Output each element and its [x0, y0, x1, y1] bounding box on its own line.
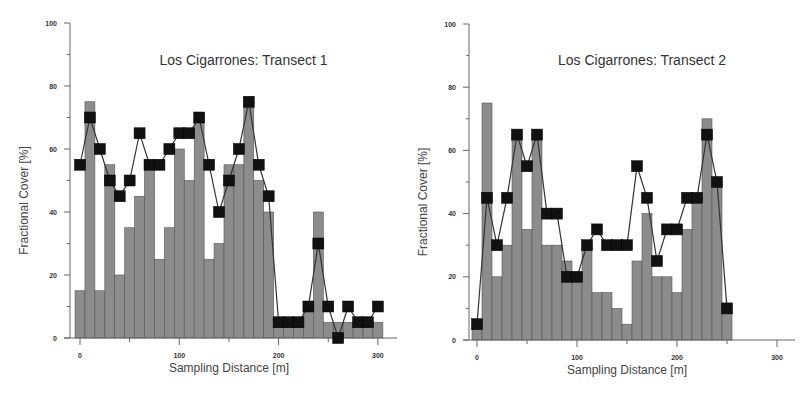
- chart-title: Los Cigarrones: Transect 2: [558, 52, 726, 68]
- square-marker: [502, 192, 513, 203]
- square-marker: [214, 207, 225, 218]
- square-marker: [313, 238, 324, 249]
- square-marker: [333, 333, 344, 344]
- y-tick-label: 20: [448, 273, 456, 280]
- square-marker: [532, 129, 543, 140]
- square-marker: [692, 192, 703, 203]
- square-marker: [482, 192, 493, 203]
- x-tick-label: 100: [173, 352, 185, 359]
- x-axis-label: Sampling Distance [m]: [567, 363, 687, 377]
- x-tick-label: 300: [771, 354, 783, 361]
- bar: [145, 165, 155, 338]
- y-tick-label: 40: [49, 209, 57, 216]
- square-marker: [323, 301, 334, 312]
- bar: [502, 245, 512, 340]
- bar: [712, 182, 722, 340]
- x-tick-label: 0: [475, 354, 479, 361]
- bar: [612, 308, 622, 340]
- square-marker: [642, 192, 653, 203]
- bar: [572, 277, 582, 340]
- bar: [672, 293, 682, 340]
- square-marker: [104, 175, 115, 186]
- bar: [95, 291, 105, 338]
- square-marker: [283, 317, 294, 328]
- bar: [602, 293, 612, 340]
- square-marker: [542, 208, 553, 219]
- square-marker: [204, 159, 215, 170]
- square-marker: [522, 161, 533, 172]
- bar: [343, 322, 353, 338]
- bar: [692, 198, 702, 340]
- bar: [323, 322, 333, 338]
- bar: [125, 228, 135, 338]
- bar: [313, 212, 323, 338]
- bar: [622, 324, 632, 340]
- bar: [662, 277, 672, 340]
- square-marker: [303, 301, 314, 312]
- square-marker: [662, 224, 673, 235]
- y-axis-label: Fractional Cover [%]: [416, 148, 430, 257]
- bar: [214, 244, 224, 339]
- square-marker: [243, 96, 254, 107]
- x-tick-label: 300: [372, 352, 384, 359]
- square-marker: [164, 144, 175, 155]
- square-marker: [144, 159, 155, 170]
- bar: [75, 291, 85, 338]
- bar: [592, 293, 602, 340]
- square-marker: [353, 317, 364, 328]
- transect-2-chart: 0204060801000100200300Los Cigarrones: Tr…: [416, 21, 795, 378]
- x-tick-label: 100: [571, 354, 583, 361]
- square-marker: [343, 301, 354, 312]
- square-marker: [174, 128, 185, 139]
- bar: [105, 165, 115, 338]
- square-marker: [94, 144, 105, 155]
- bar: [194, 118, 204, 339]
- square-marker: [512, 129, 523, 140]
- square-marker: [572, 271, 583, 282]
- y-tick-label: 60: [49, 146, 57, 153]
- square-marker: [114, 191, 125, 202]
- square-marker: [472, 319, 483, 330]
- square-marker: [154, 159, 165, 170]
- bar: [642, 214, 652, 340]
- chart-title: Los Cigarrones: Transect 1: [159, 52, 327, 68]
- square-marker: [263, 191, 274, 202]
- bar: [254, 181, 264, 339]
- bar: [154, 259, 164, 338]
- y-tick-label: 80: [49, 83, 57, 90]
- bar: [522, 229, 532, 340]
- square-marker: [702, 129, 713, 140]
- bar: [552, 245, 562, 340]
- bar: [184, 181, 194, 339]
- bar: [373, 322, 383, 338]
- square-marker: [84, 112, 95, 123]
- chart-figure: 0204060801000100200300Los Cigarrones: Tr…: [0, 0, 812, 396]
- bar: [492, 277, 502, 340]
- square-marker: [672, 224, 683, 235]
- x-tick-label: 0: [78, 352, 82, 359]
- square-marker: [194, 112, 205, 123]
- square-marker: [652, 256, 663, 267]
- transect-1-chart: 0204060801000100200300Los Cigarrones: Tr…: [17, 20, 397, 376]
- square-marker: [124, 175, 135, 186]
- y-tick-label: 0: [452, 337, 456, 344]
- bar: [512, 135, 522, 340]
- bar: [542, 245, 552, 340]
- y-tick-label: 20: [49, 272, 57, 279]
- square-marker: [722, 303, 733, 314]
- bar: [482, 103, 492, 340]
- y-tick-label: 100: [45, 20, 57, 27]
- y-axis-label: Fractional Cover [%]: [17, 146, 31, 255]
- bar: [652, 277, 662, 340]
- y-tick-label: 80: [448, 84, 456, 91]
- bar: [244, 102, 254, 338]
- square-marker: [632, 161, 643, 172]
- x-tick-label: 200: [273, 352, 285, 359]
- x-tick-label: 200: [671, 354, 683, 361]
- square-marker: [184, 128, 195, 139]
- square-marker: [293, 317, 304, 328]
- square-marker: [134, 128, 145, 139]
- x-axis-label: Sampling Distance [m]: [169, 361, 289, 375]
- square-marker: [582, 240, 593, 251]
- bar: [682, 229, 692, 340]
